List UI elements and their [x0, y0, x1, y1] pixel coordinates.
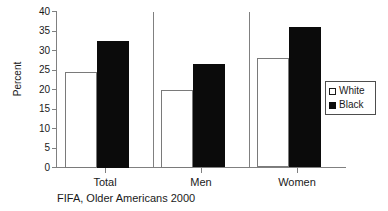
category-label-women: Women — [257, 176, 337, 188]
y-tick-label-wrap: 0 — [24, 163, 50, 173]
y-tick-mark — [52, 31, 57, 32]
x-tick-mark — [297, 168, 298, 173]
y-tick-label: 20 — [28, 85, 50, 95]
y-tick-label: 0 — [28, 163, 50, 173]
category-separator — [249, 12, 250, 168]
legend-swatch-white-icon — [329, 88, 336, 95]
y-tick-label: 5 — [28, 143, 50, 153]
bar-men-black — [193, 64, 225, 167]
y-tick-mark — [52, 167, 57, 168]
legend-label-black: Black — [339, 100, 363, 110]
y-tick-mark — [52, 89, 57, 90]
y-tick-label-wrap: 35 — [24, 26, 50, 36]
y-tick-mark — [52, 11, 57, 12]
category-separator — [153, 12, 154, 168]
x-tick-mark — [201, 168, 202, 173]
bar-men-white — [161, 90, 193, 168]
bar-total-black — [97, 41, 129, 168]
y-tick-label: 25 — [28, 65, 50, 75]
y-tick-label: 30 — [28, 46, 50, 56]
chart-legend: White Black — [325, 81, 376, 115]
bar-women-white — [257, 58, 289, 167]
y-tick-label-wrap: 15 — [24, 104, 50, 114]
y-tick-label-wrap: 30 — [24, 46, 50, 56]
y-tick-mark — [52, 70, 57, 71]
legend-item-black: Black — [329, 98, 375, 112]
y-tick-label-wrap: 40 — [24, 7, 50, 17]
y-tick-label: 10 — [28, 124, 50, 134]
bar-total-white — [65, 72, 97, 168]
x-tick-mark — [105, 168, 106, 173]
legend-item-white: White — [329, 84, 375, 98]
legend-label-white: White — [339, 86, 365, 96]
legend-swatch-black-icon — [329, 102, 336, 109]
chart-caption: FIFA, Older Americans 2000 — [57, 192, 195, 204]
y-tick-label-wrap: 10 — [24, 124, 50, 134]
bar-women-black — [289, 27, 321, 167]
category-label-total: Total — [65, 176, 145, 188]
y-tick-label-wrap: 5 — [24, 143, 50, 153]
y-tick-mark — [52, 128, 57, 129]
y-tick-label: 35 — [28, 26, 50, 36]
y-tick-label: 15 — [28, 104, 50, 114]
y-tick-label-wrap: 25 — [24, 65, 50, 75]
y-tick-label: 40 — [28, 7, 50, 17]
category-label-men: Men — [161, 176, 241, 188]
y-axis-title: Percent — [13, 49, 23, 109]
y-tick-mark — [52, 148, 57, 149]
bar-chart-figure: Percent 0510152025303540 TotalMenWomen W… — [0, 0, 388, 211]
y-tick-label-wrap: 20 — [24, 85, 50, 95]
y-tick-mark — [52, 50, 57, 51]
y-tick-mark — [52, 109, 57, 110]
